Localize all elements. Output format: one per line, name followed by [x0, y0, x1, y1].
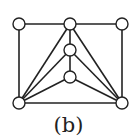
graph-edge: [70, 50, 122, 103]
graph-edge: [19, 24, 70, 103]
graph-edge: [70, 24, 122, 103]
graph-edge: [19, 50, 70, 103]
graph-node-m1: [64, 44, 76, 56]
graph-node-tr: [116, 18, 128, 30]
graph-node-bl: [13, 97, 25, 109]
graph-node-tm: [64, 18, 76, 30]
graph-edges: [19, 24, 122, 103]
graph-node-br: [116, 97, 128, 109]
figure-caption: (b): [0, 113, 137, 137]
graph-node-tl: [13, 18, 25, 30]
graph-node-m2: [64, 71, 76, 83]
